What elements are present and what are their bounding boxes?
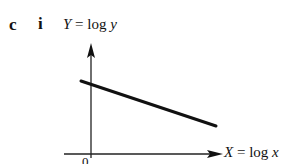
graph xyxy=(0,0,291,164)
data-line xyxy=(81,81,216,126)
